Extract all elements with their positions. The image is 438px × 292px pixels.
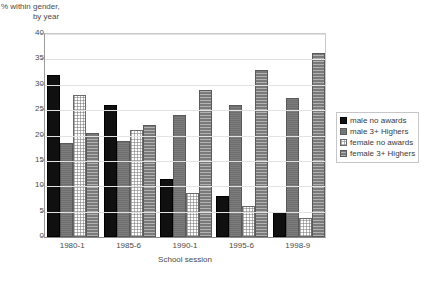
- bar: [73, 95, 86, 237]
- gridline: [45, 212, 325, 213]
- x-axis-tick-label: 1990-1: [155, 241, 215, 250]
- y-axis-tick-label: 5: [6, 206, 44, 215]
- bar: [242, 206, 255, 237]
- y-axis-tick-mark: [41, 58, 44, 59]
- bar: [186, 193, 199, 237]
- bar: [216, 196, 229, 237]
- gridline: [45, 34, 325, 35]
- y-axis-tick-label: 15: [6, 155, 44, 164]
- bar: [143, 125, 156, 237]
- bar: [86, 133, 99, 237]
- bar: [299, 218, 312, 237]
- y-axis-tick-mark: [41, 185, 44, 186]
- bar: [312, 53, 325, 237]
- legend-item[interactable]: female 3+ Highers: [340, 148, 415, 159]
- gridline: [45, 85, 325, 86]
- y-axis-tick-mark: [41, 33, 44, 34]
- legend-label: male 3+ Highers: [350, 126, 408, 137]
- legend-swatch-icon: [340, 139, 347, 146]
- y-axis-tick-label: 30: [6, 79, 44, 88]
- gridline: [45, 136, 325, 137]
- y-axis-tick-mark: [41, 109, 44, 110]
- x-axis-tick-label: 1985-6: [99, 241, 159, 250]
- bar: [286, 98, 299, 237]
- bar: [47, 75, 60, 237]
- bar: [273, 212, 286, 237]
- y-axis-tick-label: 25: [6, 104, 44, 113]
- legend-swatch-icon: [340, 128, 347, 135]
- bar: [229, 105, 242, 237]
- legend-item[interactable]: female no awards: [340, 137, 415, 148]
- x-axis-tick-label: 1998-9: [268, 241, 328, 250]
- y-axis-tick-label: 0: [6, 231, 44, 240]
- y-axis-tick-mark: [41, 211, 44, 212]
- legend-label: female 3+ Highers: [350, 148, 415, 159]
- y-axis-tick-mark: [41, 160, 44, 161]
- y-axis-tick-label: 10: [6, 180, 44, 189]
- gridline: [45, 59, 325, 60]
- bar: [60, 143, 73, 237]
- plot-area: [44, 33, 326, 238]
- bar: [104, 105, 117, 237]
- bar: [160, 179, 173, 237]
- legend-item[interactable]: male no awards: [340, 115, 415, 126]
- bar: [130, 130, 143, 237]
- gridline: [45, 110, 325, 111]
- legend-label: male no awards: [350, 115, 406, 126]
- legend: male no awardsmale 3+ Highersfemale no a…: [336, 112, 419, 163]
- y-axis-tick-mark: [41, 135, 44, 136]
- x-axis-title: School session: [44, 255, 326, 264]
- legend-swatch-icon: [340, 150, 347, 157]
- y-axis-tick-label: 35: [6, 53, 44, 62]
- bar-chart: % within gender, by year 051015202530354…: [0, 0, 438, 292]
- bar: [173, 115, 186, 237]
- y-axis: 0510152025303540: [0, 0, 44, 292]
- legend-label: female no awards: [350, 137, 413, 148]
- gridline: [45, 186, 325, 187]
- legend-item[interactable]: male 3+ Highers: [340, 126, 415, 137]
- legend-swatch-icon: [340, 117, 347, 124]
- y-axis-tick-label: 20: [6, 130, 44, 139]
- bar: [117, 141, 130, 237]
- y-axis-tick-mark: [41, 236, 44, 237]
- bar: [199, 90, 212, 237]
- y-axis-tick-mark: [41, 84, 44, 85]
- gridline: [45, 161, 325, 162]
- x-axis-tick-label: 1980-1: [42, 241, 102, 250]
- y-axis-tick-label: 40: [6, 28, 44, 37]
- x-axis-tick-label: 1995-6: [211, 241, 271, 250]
